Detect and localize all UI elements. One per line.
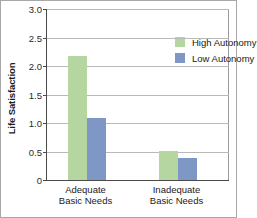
legend-item-low-autonomy: Low Autonomy xyxy=(175,51,237,65)
x-axis-tick-label: InadequateBasic Needs xyxy=(150,184,203,206)
y-axis-tick-label: 0.5 xyxy=(29,146,42,157)
bar-0-0 xyxy=(68,56,87,180)
y-axis-tick-label: 1.5 xyxy=(29,89,42,100)
chart-figure: Life Satisfaction 00.51.01.52.02.53.0 Hi… xyxy=(0,0,237,218)
legend-swatch-low-autonomy xyxy=(175,53,185,63)
bar-0-1 xyxy=(159,151,178,180)
legend-label-low-autonomy: Low Autonomy xyxy=(192,53,237,64)
legend: High Autonomy Low Autonomy xyxy=(175,35,237,67)
y-axis-tick-mark xyxy=(43,123,47,124)
bar-1-1 xyxy=(178,158,197,180)
y-axis-tick-label: 0 xyxy=(37,175,42,186)
y-axis-tick-mark xyxy=(43,38,47,39)
y-axis-tick-mark xyxy=(43,152,47,153)
y-axis-tick-label: 2.0 xyxy=(29,61,42,72)
x-axis-tick-label: AdequateBasic Needs xyxy=(59,184,112,206)
y-axis-title: Life Satisfaction xyxy=(3,39,21,157)
x-axis-tick-labels: AdequateBasic NeedsInadequateBasic Needs xyxy=(46,184,229,214)
y-axis-tick-mark xyxy=(43,66,47,67)
y-axis-tick-label: 1.0 xyxy=(29,118,42,129)
y-axis-tick-labels: 00.51.01.52.02.53.0 xyxy=(21,9,44,181)
plot-area: High Autonomy Low Autonomy xyxy=(46,9,229,181)
y-axis-tick-mark xyxy=(43,180,47,181)
gridline xyxy=(47,9,229,10)
y-axis-tick-mark xyxy=(43,9,47,10)
y-axis-tick-mark xyxy=(43,95,47,96)
y-axis-tick-label: 3.0 xyxy=(29,4,42,15)
y-axis-title-text: Life Satisfaction xyxy=(7,62,18,134)
y-axis-tick-label: 2.5 xyxy=(29,32,42,43)
gridline xyxy=(47,38,229,39)
legend-swatch-high-autonomy xyxy=(175,37,185,47)
bar-1-0 xyxy=(87,118,106,180)
